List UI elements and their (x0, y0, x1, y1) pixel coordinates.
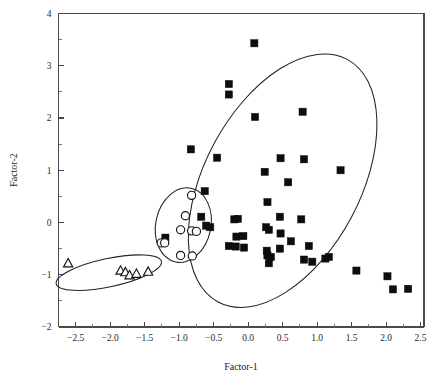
data-point-circle (176, 226, 184, 234)
data-point-square (337, 167, 344, 174)
data-point-square (298, 216, 305, 223)
y-axis-label: Factor-2 (8, 153, 19, 187)
data-point-square (389, 286, 396, 293)
data-point-square (225, 80, 232, 87)
data-point-square (201, 188, 208, 195)
data-point-square (233, 233, 240, 240)
data-point-circle (181, 212, 189, 220)
data-point-square (232, 243, 239, 250)
data-point-square (265, 260, 272, 267)
data-point-circle (176, 251, 184, 259)
data-point-square (322, 255, 329, 262)
x-tick-label: 2.5 (415, 333, 427, 343)
data-point-square (225, 91, 232, 98)
x-tick-label: 1.5 (346, 333, 358, 343)
data-point-square (285, 179, 292, 186)
data-point-square (251, 113, 258, 120)
data-point-square (264, 199, 271, 206)
x-tick-label: −1.0 (171, 333, 188, 343)
data-point-square (240, 244, 247, 251)
data-point-square (187, 146, 194, 153)
data-point-circle (161, 239, 169, 247)
x-tick-label: 0.0 (242, 333, 254, 343)
data-point-square (384, 273, 391, 280)
x-tick-label: −2.5 (67, 333, 84, 343)
data-point-square (299, 108, 306, 115)
data-point-square (265, 226, 272, 233)
data-point-square (353, 267, 360, 274)
x-tick-label: −2.0 (102, 333, 119, 343)
data-point-square (305, 242, 312, 249)
data-point-circle (187, 191, 195, 199)
x-tick-label: 0.5 (277, 333, 289, 343)
data-point-square (234, 215, 241, 222)
data-point-square (261, 168, 268, 175)
y-tick-label: −1 (41, 270, 51, 280)
y-tick-label: −2 (41, 322, 51, 332)
data-point-square (277, 230, 284, 237)
scatter-plot-figure: −2.5−2.0−1.5−1.0−0.50.00.51.01.52.02.543… (0, 0, 444, 381)
data-point-square (300, 156, 307, 163)
data-point-square (251, 40, 258, 47)
data-point-square (276, 245, 283, 252)
data-point-square (207, 224, 214, 231)
data-point-square (198, 213, 205, 220)
figure-background (0, 0, 444, 381)
x-axis-label: Factor-1 (224, 361, 258, 372)
y-tick-label: 0 (47, 218, 52, 228)
x-tick-label: −1.5 (136, 333, 153, 343)
y-tick-label: 4 (47, 9, 52, 19)
data-point-square (277, 155, 284, 162)
x-tick-label: −0.5 (205, 333, 222, 343)
data-point-square (225, 242, 232, 249)
data-point-square (300, 256, 307, 263)
y-tick-label: 2 (47, 113, 52, 123)
data-point-circle (192, 227, 200, 235)
y-tick-label: 1 (47, 166, 52, 176)
data-point-square (214, 154, 221, 161)
data-point-square (309, 258, 316, 265)
data-point-square (276, 213, 283, 220)
data-point-square (287, 238, 294, 245)
x-tick-label: 1.0 (311, 333, 323, 343)
x-tick-label: 2.0 (380, 333, 392, 343)
data-point-square (240, 232, 247, 239)
data-point-circle (188, 252, 196, 260)
data-point-square (405, 285, 412, 292)
factor-scatter-plot: −2.5−2.0−1.5−1.0−0.50.00.51.01.52.02.543… (0, 0, 444, 381)
y-tick-label: 3 (47, 61, 52, 71)
